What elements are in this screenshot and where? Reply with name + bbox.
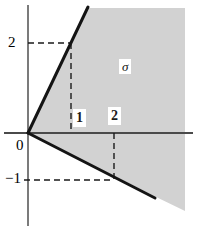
y-tick-label-2: 2	[8, 35, 16, 50]
origin-label: 0	[16, 138, 24, 153]
x-tick-label-1: 1	[73, 109, 86, 127]
region-label-sigma: σ	[119, 59, 131, 74]
figure-container: 2 0 −1 1 2 σ	[0, 0, 201, 230]
plot-canvas	[0, 0, 201, 230]
x-tick-label-2: 2	[108, 107, 121, 125]
y-tick-label-minus-1: −1	[5, 171, 21, 186]
